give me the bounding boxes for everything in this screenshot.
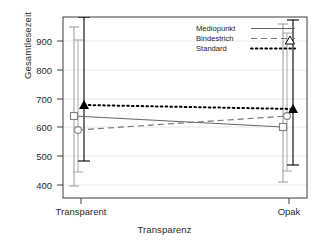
x-axis-ticks xyxy=(81,198,289,204)
series-line-standard xyxy=(84,105,293,109)
marker-standard-transparent xyxy=(79,100,89,109)
chart-container: Gesamtlesezeit Transparenz 400 500 600 7… xyxy=(0,0,329,242)
legend-swatch-solid-line xyxy=(250,24,300,33)
series-line-mediopunkt xyxy=(74,116,283,127)
errorbar-standard-transparent xyxy=(78,17,90,161)
legend-swatch-dotted-line xyxy=(250,44,300,53)
legend-label-standard: Standard xyxy=(196,44,250,53)
marker-bindestrich-opak xyxy=(284,113,291,120)
legend-item-bindestrich: Bindestrich xyxy=(196,34,300,43)
marker-bindestrich-transparent xyxy=(75,127,82,134)
gridlines xyxy=(63,41,307,185)
legend-item-mediopunkt: Mediopunkt xyxy=(196,24,300,33)
legend-swatch-dashed-line xyxy=(250,34,300,43)
legend: Mediopunkt Bindestrich Standard xyxy=(196,24,300,54)
marker-mediopunkt-transparent xyxy=(71,113,78,120)
marker-mediopunkt-opak xyxy=(280,124,287,131)
legend-label-bindestrich: Bindestrich xyxy=(196,34,250,43)
legend-label-mediopunkt: Mediopunkt xyxy=(196,24,250,33)
legend-item-standard: Standard xyxy=(196,44,300,53)
y-axis-ticks xyxy=(57,41,63,185)
